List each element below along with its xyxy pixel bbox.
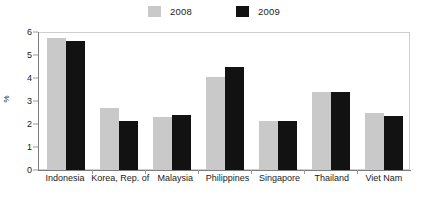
x-axis-label: Viet Nam [358,174,410,184]
x-axis-label: Malaysia [149,174,201,184]
bar-pair [100,108,138,170]
bar-pair [153,115,191,170]
y-axis-tick-label: 2 [27,120,32,129]
bar-2009-philippines[interactable] [225,67,244,171]
bars-layer [39,32,410,170]
y-axis-tick-label: 6 [27,28,32,37]
bar-2008-korea-rep-of[interactable] [100,108,119,170]
y-axis-tick-mark [33,32,38,33]
bar-2009-singapore[interactable] [278,121,297,170]
bar-pair [206,67,244,171]
y-axis-tick-label: 0 [27,166,32,175]
x-axis-label: Singapore [254,174,306,184]
bar-group [198,32,251,170]
bar-2009-viet-nam[interactable] [384,116,403,170]
x-axis-label: Korea, Rep. of [91,174,149,184]
bar-chart: 2008 2009 0123456 % IndonesiaKorea, Rep.… [0,0,428,200]
bar-2008-indonesia[interactable] [47,38,66,170]
x-axis-label: Thailand [306,174,358,184]
bar-pair [365,113,403,171]
x-axis-line [38,170,411,171]
legend-swatch-2009 [236,6,249,17]
bar-pair [312,92,350,170]
bar-2009-korea-rep-of[interactable] [119,121,138,170]
x-axis-tick-mark [145,170,146,174]
bar-group [251,32,304,170]
bar-pair [259,121,297,170]
x-axis-tick-mark [92,170,93,174]
bar-2008-viet-nam[interactable] [365,113,384,171]
legend-label-2009: 2009 [258,7,280,17]
legend-label-2008: 2008 [170,7,192,17]
bar-2009-indonesia[interactable] [66,41,85,170]
bar-group [304,32,357,170]
legend-item-2009[interactable]: 2009 [236,6,280,17]
x-axis-tick-mark [357,170,358,174]
legend-swatch-2008 [148,6,161,17]
y-axis-tick-label: 5 [27,51,32,60]
x-axis-label: Indonesia [39,174,91,184]
y-axis-tick-mark [33,170,38,171]
bar-2008-malaysia[interactable] [153,117,172,170]
y-axis-tick-label: 1 [27,143,32,152]
bar-2009-malaysia[interactable] [172,115,191,170]
x-axis-labels: IndonesiaKorea, Rep. ofMalaysiaPhilippin… [39,174,410,184]
y-axis-tick-mark [33,55,38,56]
y-axis-tick-mark [33,147,38,148]
y-axis-tick-label: 4 [27,74,32,83]
bar-2008-philippines[interactable] [206,77,225,170]
chart-legend: 2008 2009 [0,6,428,17]
bar-2009-thailand[interactable] [331,92,350,170]
y-axis-tick-label: 3 [27,97,32,106]
bar-group [92,32,145,170]
bar-pair [47,38,85,170]
y-axis-tick-mark [33,101,38,102]
bar-2008-thailand[interactable] [312,92,331,170]
bar-2008-singapore[interactable] [259,121,278,170]
y-axis-tick-mark [33,78,38,79]
x-axis-tick-mark [304,170,305,174]
legend-item-2008[interactable]: 2008 [148,6,192,17]
bar-group [357,32,410,170]
y-axis-tick-mark [33,124,38,125]
x-axis-tick-mark [198,170,199,174]
bar-group [145,32,198,170]
x-axis-label: Philippines [201,174,253,184]
bar-group [39,32,92,170]
y-axis-title: % [2,95,11,102]
x-axis-tick-mark [251,170,252,174]
